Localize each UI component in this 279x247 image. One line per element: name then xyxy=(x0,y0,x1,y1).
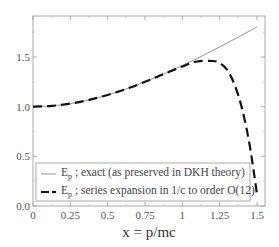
y-tick-label: 1.0 xyxy=(16,101,30,113)
x-axis-label: x = p/mc xyxy=(122,224,176,240)
x-tick-label: 0.5 xyxy=(101,209,115,221)
y-tick-labels: 0.00.51.01.5 xyxy=(16,51,30,212)
x-tick-labels: 00.250.50.7511.251.5 xyxy=(30,209,264,221)
y-tick-label: 1.5 xyxy=(16,51,30,63)
x-tick-label: 1.25 xyxy=(210,209,230,221)
y-tick-label: 0.0 xyxy=(16,200,30,212)
x-tick-label: 0 xyxy=(30,209,36,221)
x-tick-label: 1 xyxy=(180,209,186,221)
x-tick-label: 0.25 xyxy=(61,209,81,221)
x-tick-label: 0.75 xyxy=(135,209,155,221)
x-tick-label: 1.5 xyxy=(250,209,264,221)
legend: Ep ; exact (as preserved in DKH theory) … xyxy=(36,163,255,201)
chart: 00.250.50.7511.251.5 0.00.51.01.5 Ep ; e… xyxy=(0,0,279,247)
y-tick-label: 0.5 xyxy=(16,150,30,162)
